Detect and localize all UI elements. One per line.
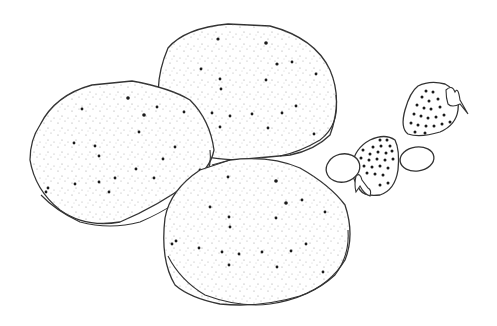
illustration-canvas <box>0 0 497 326</box>
strawberry-upper <box>403 82 468 135</box>
pancake-front <box>164 159 350 305</box>
pancakes-strawberries-illustration <box>0 0 497 326</box>
berry-slice-right <box>398 145 435 173</box>
